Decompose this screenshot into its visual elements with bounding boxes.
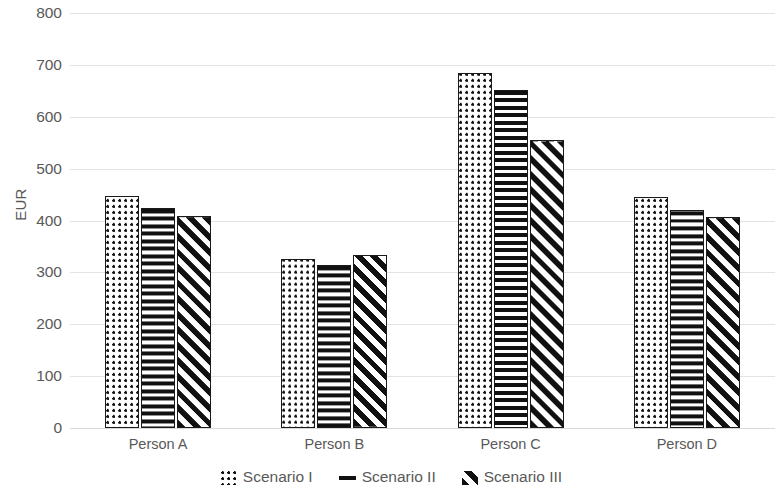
bar <box>706 217 740 428</box>
y-axis-tick-label: 0 <box>14 420 62 436</box>
chart-legend: Scenario IScenario IIScenario III <box>0 468 783 486</box>
x-axis-category-label: Person D <box>599 436 775 452</box>
bar <box>141 208 175 428</box>
bar-group <box>105 13 211 428</box>
y-axis-tick-label: 300 <box>14 264 62 280</box>
plot-area <box>70 13 775 428</box>
x-axis-category-label: Person C <box>423 436 599 452</box>
bar <box>494 90 528 428</box>
bar <box>530 140 564 428</box>
y-axis-tick-label: 800 <box>14 5 62 21</box>
bar <box>458 73 492 428</box>
bar <box>105 196 139 428</box>
x-axis-category-label: Person B <box>246 436 422 452</box>
bar <box>634 197 668 428</box>
dots-swatch-icon <box>221 471 237 485</box>
y-axis-tick-label: 400 <box>14 213 62 229</box>
legend-label: Scenario III <box>484 468 562 486</box>
bar-chart: EUR 0100200300400500600700800 Person APe… <box>0 0 783 494</box>
y-axis-tick-label: 500 <box>14 161 62 177</box>
bar <box>353 255 387 428</box>
legend-item[interactable]: Scenario I <box>221 468 313 486</box>
legend-label: Scenario I <box>243 468 313 486</box>
x-axis-category-label: Person A <box>70 436 246 452</box>
bar <box>317 265 351 428</box>
bar <box>281 259 315 428</box>
y-axis-tick-labels: 0100200300400500600700800 <box>14 0 62 440</box>
bar-group <box>634 13 740 428</box>
bar-group <box>281 13 387 428</box>
legend-item[interactable]: Scenario II <box>339 468 436 486</box>
bar-group <box>458 13 564 428</box>
y-axis-tick-label: 700 <box>14 57 62 73</box>
y-axis-tick-label: 200 <box>14 316 62 332</box>
y-axis-tick-label: 600 <box>14 109 62 125</box>
legend-label: Scenario II <box>362 468 436 486</box>
bar <box>177 216 211 428</box>
horizontal-lines-swatch-icon <box>339 471 356 485</box>
diagonal-lines-swatch-icon <box>462 471 478 485</box>
legend-item[interactable]: Scenario III <box>462 468 562 486</box>
y-axis-tick-label: 100 <box>14 368 62 384</box>
gridline <box>70 428 775 429</box>
bar <box>670 210 704 428</box>
